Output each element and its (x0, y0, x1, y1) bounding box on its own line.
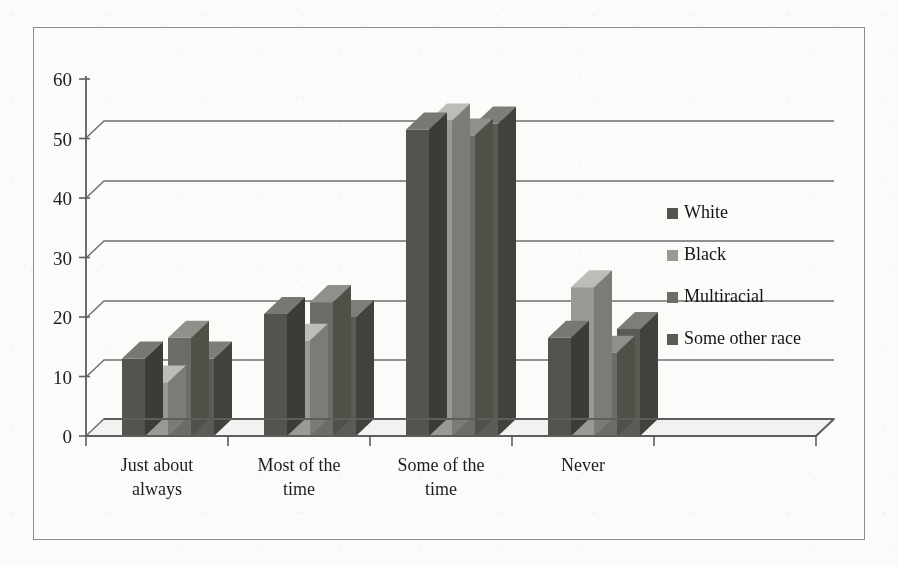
legend-item-some-other-race[interactable]: Some other race (667, 328, 801, 348)
legend-item-multiracial[interactable]: Multiracial (667, 286, 764, 306)
cat-label-0-line2: always (132, 479, 182, 499)
cat-label-2-line1: Some of the (398, 455, 485, 475)
legend-swatch-white (667, 208, 678, 219)
ytick-label-10: 10 (53, 367, 72, 388)
ytick-label-60: 60 (53, 69, 72, 90)
chart-legend: White Black Multiracial Some other race (667, 202, 801, 348)
legend-label-some-other-race: Some other race (684, 328, 801, 348)
bar-g1-white (122, 342, 163, 436)
bars-layer (122, 104, 658, 436)
legend-item-white[interactable]: White (667, 202, 728, 222)
cat-label-0-line1: Just about (121, 455, 194, 475)
cat-label-1-line2: time (283, 479, 315, 499)
bar-chart-plot: 0 10 20 30 40 50 60 Just about always Mo… (34, 28, 866, 541)
ytick-label-30: 30 (53, 248, 72, 269)
bar-g2-white (264, 297, 305, 436)
chart-frame: 0 10 20 30 40 50 60 Just about always Mo… (33, 27, 865, 540)
cat-label-3-line1: Never (561, 455, 605, 475)
y-axis-tick-labels: 0 10 20 30 40 50 60 (53, 69, 72, 447)
cat-label-1-line1: Most of the (258, 455, 341, 475)
legend-item-black[interactable]: Black (667, 244, 726, 264)
legend-label-multiracial: Multiracial (684, 286, 764, 306)
legend-swatch-black (667, 250, 678, 261)
ytick-label-0: 0 (63, 426, 73, 447)
legend-label-black: Black (684, 244, 726, 264)
legend-swatch-multiracial (667, 292, 678, 303)
bar-g3-white (406, 113, 447, 436)
ytick-label-20: 20 (53, 307, 72, 328)
legend-swatch-some-other-race (667, 334, 678, 345)
ytick-label-50: 50 (53, 129, 72, 150)
x-axis-category-labels: Just about always Most of the time Some … (121, 455, 605, 499)
cat-label-2-line2: time (425, 479, 457, 499)
legend-label-white: White (684, 202, 728, 222)
ytick-label-40: 40 (53, 188, 72, 209)
